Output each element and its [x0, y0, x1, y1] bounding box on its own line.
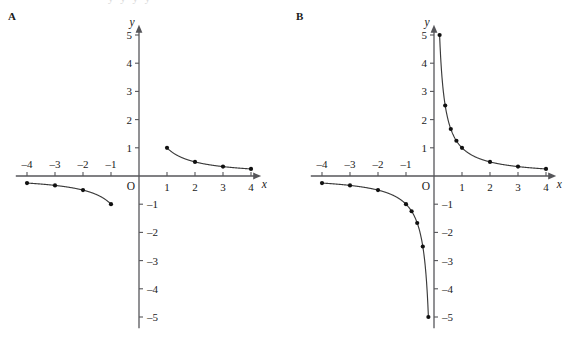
- y-tick-label: 5: [422, 29, 428, 41]
- data-point: [165, 146, 169, 150]
- data-point: [348, 183, 352, 187]
- x-tick-label: 4: [248, 181, 254, 193]
- panel-b: B –4–3–2–1123454321–1–2–3–4–5Oxy: [290, 0, 580, 355]
- origin-label: O: [127, 180, 135, 192]
- axes: [311, 25, 556, 329]
- data-point: [449, 127, 453, 131]
- y-tick-label: 2: [422, 114, 428, 126]
- x-tick-label: 1: [459, 181, 465, 193]
- data-point: [488, 160, 492, 164]
- y-tick-label: 1: [422, 142, 428, 154]
- y-axis-label: y: [423, 16, 430, 29]
- x-axis-label: x: [261, 178, 268, 190]
- panel-a-plot: –4–3–2–1123454321–1–2–3–4–5Oxy: [0, 0, 290, 355]
- y-tick-label: –3: [146, 255, 159, 267]
- x-tick-label: –1: [105, 158, 117, 170]
- data-point: [25, 181, 29, 185]
- panel-a: A –4–3–2–1123454321–1–2–3–4–5Oxy: [0, 0, 290, 355]
- y-tick-label: 3: [127, 85, 133, 97]
- y-tick-label: 3: [422, 85, 428, 97]
- x-tick-label: 4: [543, 181, 549, 193]
- y-axis-arrow: [136, 25, 143, 33]
- data-point: [81, 188, 85, 192]
- y-tick-label: 5: [127, 29, 133, 41]
- data-point: [415, 221, 419, 225]
- x-tick-label: –1: [400, 158, 412, 170]
- x-tick-label: –2: [372, 158, 384, 170]
- y-tick-label: –5: [441, 311, 454, 323]
- y-axis-arrow: [431, 25, 438, 33]
- data-point: [426, 315, 430, 319]
- x-tick-label: 3: [220, 181, 226, 193]
- y-tick-label: 1: [127, 142, 133, 154]
- data-point: [460, 146, 464, 150]
- data-point: [376, 188, 380, 192]
- x-tick-label: 1: [164, 181, 170, 193]
- data-point: [53, 183, 57, 187]
- data-point: [221, 165, 225, 169]
- x-tick-label: 2: [192, 181, 198, 193]
- x-tick-label: 2: [487, 181, 493, 193]
- y-tick-label: –2: [146, 226, 158, 238]
- y-tick-label: –3: [441, 255, 454, 267]
- y-tick-label: 4: [422, 57, 428, 69]
- y-tick-label: –5: [146, 311, 159, 323]
- x-tick-label: –4: [316, 158, 329, 170]
- x-axis-label: x: [556, 178, 563, 190]
- hyperbola-curve-negative: [322, 183, 428, 317]
- y-tick-label: –4: [146, 283, 159, 295]
- panel-b-plot: –4–3–2–1123454321–1–2–3–4–5Oxy: [290, 0, 580, 355]
- hyperbola-curve-positive: [167, 148, 251, 169]
- y-tick-label: 4: [127, 57, 133, 69]
- y-tick-label: –2: [441, 226, 453, 238]
- data-point: [410, 209, 414, 213]
- data-point: [421, 244, 425, 248]
- data-point: [544, 167, 548, 171]
- x-tick-label: –2: [77, 158, 89, 170]
- data-point: [193, 160, 197, 164]
- data-point: [404, 202, 408, 206]
- x-axis-arrow: [548, 173, 556, 180]
- y-tick-label: –4: [441, 283, 454, 295]
- hyperbola-curve-positive: [440, 35, 546, 169]
- x-tick-label: –3: [49, 158, 62, 170]
- figure-container: y y y y A –4–3–2–1123454321–1–2–3–4–5Oxy…: [0, 0, 580, 355]
- y-tick-label: 2: [127, 114, 133, 126]
- data-point: [438, 33, 442, 37]
- data-point: [443, 103, 447, 107]
- y-tick-label: –1: [146, 198, 158, 210]
- x-tick-label: –3: [344, 158, 357, 170]
- data-point: [320, 181, 324, 185]
- origin-label: O: [422, 180, 430, 192]
- data-point: [454, 139, 458, 143]
- y-axis-label: y: [128, 16, 135, 29]
- x-axis-arrow: [253, 173, 261, 180]
- axes: [16, 25, 261, 329]
- data-point: [249, 167, 253, 171]
- y-tick-label: –1: [441, 198, 453, 210]
- x-tick-label: 3: [515, 181, 521, 193]
- data-point: [109, 202, 113, 206]
- hyperbola-curve-negative: [27, 183, 111, 204]
- x-tick-label: –4: [21, 158, 34, 170]
- data-point: [516, 165, 520, 169]
